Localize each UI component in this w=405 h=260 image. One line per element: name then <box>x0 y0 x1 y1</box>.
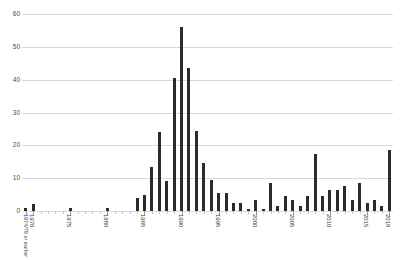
bar <box>202 163 205 211</box>
x-tick-label: 1990 <box>178 214 184 227</box>
bar <box>136 198 139 211</box>
bar <box>269 183 272 211</box>
bar <box>165 181 168 211</box>
y-tick-label: 20 <box>2 142 20 149</box>
x-tick-label: 2010 <box>326 214 332 227</box>
bar <box>158 132 161 211</box>
bar <box>373 200 376 211</box>
bar <box>358 183 361 211</box>
bar <box>336 190 339 211</box>
x-axis-labels: 1974/79 or earlier1970197519801985199019… <box>22 214 393 260</box>
y-tick-label: 30 <box>2 109 20 116</box>
bar <box>239 203 242 211</box>
y-tick-label: 0 <box>2 208 20 215</box>
y-tick-label: 40 <box>2 76 20 83</box>
bar <box>187 68 190 211</box>
bar <box>225 193 228 211</box>
x-tick-label: 2018 <box>385 214 391 227</box>
x-tick-label: 1974/79 or earlier <box>22 214 28 257</box>
bar <box>351 200 354 211</box>
bar <box>343 186 346 211</box>
bar <box>210 180 213 211</box>
bar <box>143 195 146 211</box>
bar-series <box>22 14 393 211</box>
bar <box>328 190 331 211</box>
x-tick-label: 2015 <box>363 214 369 227</box>
bar <box>173 78 176 211</box>
x-tick-label: 2000 <box>252 214 258 227</box>
bar <box>232 203 235 211</box>
bar <box>217 193 220 211</box>
bar <box>321 196 324 211</box>
plot-area <box>22 14 393 211</box>
bar <box>388 150 391 211</box>
bar <box>284 196 287 211</box>
y-tick-label: 50 <box>2 44 20 51</box>
bar <box>291 200 294 211</box>
y-tick-label: 10 <box>2 175 20 182</box>
bar <box>254 200 257 211</box>
x-tick-label: 1975 <box>66 214 72 227</box>
x-tick-label: 1995 <box>215 214 221 227</box>
bar <box>306 196 309 211</box>
bar <box>314 154 317 211</box>
bar-chart: 0102030405060 1974/79 or earlier19701975… <box>0 0 405 260</box>
y-axis: 0102030405060 <box>0 0 20 260</box>
y-tick-label: 60 <box>2 11 20 18</box>
x-tick-label: 1970 <box>29 214 35 227</box>
bar <box>150 167 153 211</box>
x-tick-label: 1980 <box>103 214 109 227</box>
bar <box>180 27 183 211</box>
x-tick-label: 1985 <box>140 214 146 227</box>
bar <box>366 203 369 211</box>
x-tick-label: 2005 <box>289 214 295 227</box>
bar <box>195 131 198 211</box>
